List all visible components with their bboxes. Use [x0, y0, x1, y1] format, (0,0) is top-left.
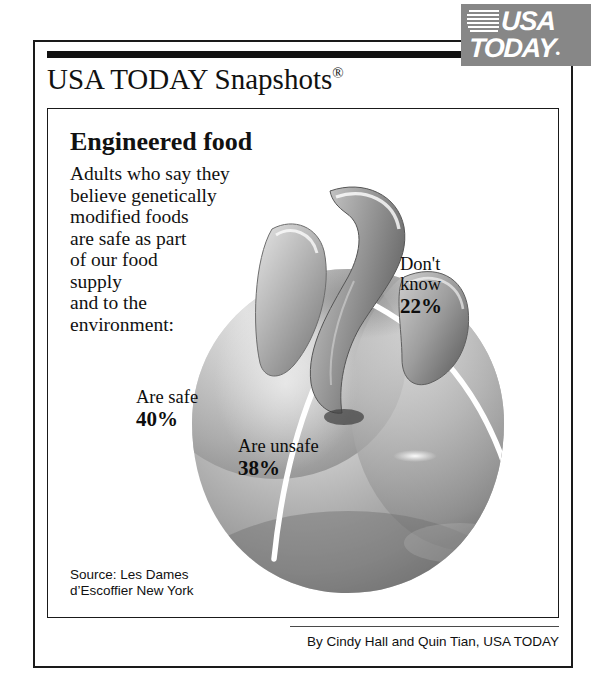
slice-value-dont-know: 22%	[400, 295, 442, 318]
usa-today-swoosh-icon	[467, 9, 499, 34]
logo-text-today: TODAY	[469, 35, 556, 61]
slice-name-are-unsafe: Are unsafe	[238, 436, 319, 456]
page-title-text: USA TODAY Snapshots	[47, 63, 332, 95]
chart-subtitle: Adults who say they believe genetically …	[70, 163, 255, 335]
registered-mark: ®	[332, 65, 343, 81]
slice-name-dont-know: Don't know	[400, 254, 442, 294]
slice-label-are-unsafe: Are unsafe 38%	[238, 436, 319, 480]
slice-label-are-safe: Are safe 40%	[136, 387, 198, 431]
slice-value-are-unsafe: 38%	[238, 457, 319, 480]
source-note: Source: Les Dames d’Escoffier New York	[70, 567, 194, 599]
logo-period: .	[555, 37, 561, 59]
logo-row-bottom: TODAY .	[469, 35, 561, 61]
logo-text-usa: USA	[501, 8, 556, 34]
slice-label-dont-know: Don't know 22%	[400, 254, 442, 318]
chart-panel: Engineered food Adults who say they beli…	[47, 108, 559, 618]
chart-headline: Engineered food	[70, 127, 252, 157]
page-title: USA TODAY Snapshots®	[47, 62, 344, 96]
byline-divider	[290, 626, 559, 627]
snapshot-frame: USA TODAY Snapshots®	[33, 40, 573, 668]
byline: By Cindy Hall and Quin Tian, USA TODAY	[47, 628, 559, 651]
slice-value-are-safe: 40%	[136, 408, 198, 431]
slice-name-are-safe: Are safe	[136, 387, 198, 407]
usa-today-logo: USA TODAY .	[461, 4, 591, 66]
logo-row-top: USA	[467, 8, 555, 34]
